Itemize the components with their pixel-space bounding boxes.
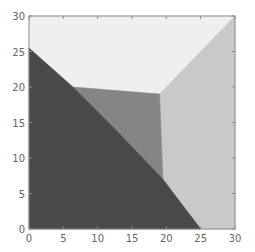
x-tick-label: 15 <box>126 233 139 244</box>
y-tick-label: 5 <box>19 189 25 200</box>
y-tick-label: 20 <box>12 82 25 93</box>
y-tick-label: 25 <box>12 47 25 58</box>
y-tick-labels: 051015202530 <box>12 11 25 235</box>
x-tick-label: 20 <box>160 233 173 244</box>
y-tick-label: 30 <box>12 11 25 22</box>
x-tick-label: 5 <box>60 233 66 244</box>
y-tick-label: 15 <box>12 118 25 129</box>
figure: 051015202530 051015202530 <box>0 0 255 252</box>
plot-regions <box>29 16 235 229</box>
y-tick-label: 10 <box>12 153 25 164</box>
x-tick-label: 0 <box>26 233 32 244</box>
x-tick-labels: 051015202530 <box>26 233 242 244</box>
x-tick-label: 10 <box>91 233 104 244</box>
x-tick-label: 30 <box>229 233 242 244</box>
y-tick-label: 0 <box>19 224 25 235</box>
x-tick-label: 25 <box>194 233 207 244</box>
